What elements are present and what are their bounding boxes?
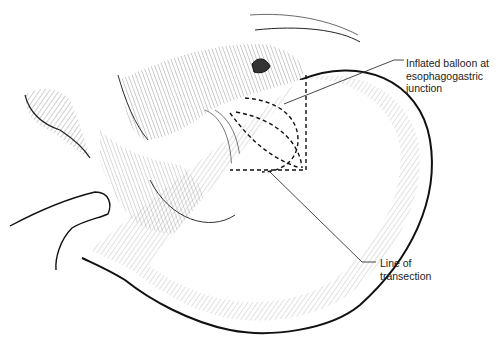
label-line: transection	[380, 270, 431, 283]
stomach-illustration	[0, 0, 499, 349]
label-line: Inflated balloon at	[406, 57, 489, 70]
label-line: junction	[406, 82, 489, 95]
label-line: esophagogastric	[406, 70, 489, 83]
label-line-of-transection: Line of transection	[380, 257, 431, 282]
label-line: Line of	[380, 257, 431, 270]
duodenum	[10, 192, 110, 270]
label-inflated-balloon: Inflated balloon at esophagogastric junc…	[406, 57, 489, 95]
